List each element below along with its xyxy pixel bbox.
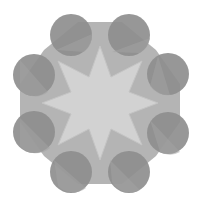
eight-pointed-star [42, 46, 158, 160]
star-circle-diagram [0, 0, 199, 201]
